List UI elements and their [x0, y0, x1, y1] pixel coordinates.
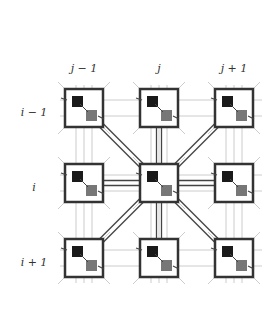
row-label-i-plus-1: i + 1	[21, 256, 48, 269]
row-label-i-minus-1: i − 1	[21, 106, 48, 119]
column-label-j: j	[157, 62, 160, 75]
row-label-i: i	[32, 181, 36, 194]
column-label-j-minus-1: j − 1	[71, 62, 98, 75]
lattice-diagram	[0, 0, 274, 318]
column-label-j-plus-1: j + 1	[221, 62, 248, 75]
